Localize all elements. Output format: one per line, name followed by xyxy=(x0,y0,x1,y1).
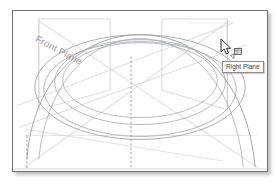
cad-viewport[interactable]: Front Plane Right Plane xyxy=(12,10,268,172)
model-canvas[interactable] xyxy=(13,11,267,171)
sphere-silhouette[interactable] xyxy=(27,35,255,167)
front-plane-outline[interactable] xyxy=(39,19,110,110)
reference-plane-front[interactable] xyxy=(39,19,110,110)
centerlines xyxy=(27,56,131,169)
screenshot-root: Front Plane Right Plane xyxy=(0,0,277,186)
